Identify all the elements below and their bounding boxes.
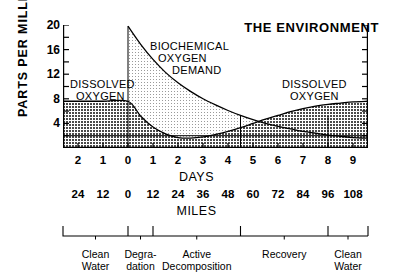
miles-tick-label: 12	[147, 188, 160, 200]
zone-label-line: Decomposition	[162, 261, 231, 273]
miles-tick-label: 0	[125, 188, 131, 200]
zone-label: ActiveDecomposition	[162, 249, 231, 272]
bod-line: BIOCHEMICAL	[150, 40, 229, 52]
days-tick-label: 7	[300, 154, 306, 166]
y-tick-label: 20	[36, 19, 60, 31]
y-tick-label: 12	[36, 68, 60, 80]
days-tick-label: 9	[350, 154, 356, 166]
days-tick-label: 3	[200, 154, 206, 166]
biochemical-oxygen-demand-label: BIOCHEMICALOXYGENDEMAND	[150, 40, 229, 76]
days-tick-label: 0	[125, 154, 131, 166]
miles-tick-label: 24	[72, 188, 85, 200]
bod-line: DEMAND	[150, 64, 229, 76]
miles-tick-label: 72	[272, 188, 285, 200]
miles-axis-ticks: 241201224364860728496108	[0, 188, 393, 204]
do-right-line: OXYGEN	[282, 90, 347, 102]
zone-label-line: Recovery	[262, 249, 306, 261]
do-left-line: OXYGEN	[70, 90, 135, 102]
miles-tick-label: 60	[247, 188, 260, 200]
days-axis-title: DAYS	[0, 170, 393, 184]
days-tick-label: 1	[150, 154, 156, 166]
y-axis-title: PARTS PER MILLION	[16, 0, 30, 117]
dissolved-oxygen-left-label: DISSOLVEDOXYGEN	[70, 78, 135, 102]
zone-label-line: Degra-	[124, 249, 156, 261]
miles-tick-label: 24	[172, 188, 185, 200]
y-tick-label: 16	[36, 44, 60, 56]
miles-tick-label: 96	[322, 188, 335, 200]
zone-label-line: Active	[162, 249, 231, 261]
miles-tick-label: 12	[97, 188, 110, 200]
zone-label-line: Water	[82, 261, 110, 273]
zone-label: CleanWater	[334, 249, 362, 272]
zone-label-line: Water	[334, 261, 362, 273]
days-tick-label: 4	[225, 154, 231, 166]
zone-label-line: Clean	[334, 249, 362, 261]
zone-label: CleanWater	[82, 249, 110, 272]
dissolved-oxygen-right-label: DISSOLVEDOXYGEN	[282, 78, 347, 102]
zone-label: Degra-dation	[124, 249, 156, 272]
miles-tick-label: 36	[197, 188, 210, 200]
zone-bracket-line	[63, 226, 368, 236]
miles-tick-label: 108	[343, 188, 362, 200]
bod-line: OXYGEN	[150, 52, 229, 64]
days-tick-label: 1	[100, 154, 106, 166]
zone-bracket	[0, 222, 393, 242]
miles-tick-label: 84	[297, 188, 310, 200]
y-tick-label: 8	[36, 93, 60, 105]
days-tick-label: 2	[175, 154, 181, 166]
do-right-line: DISSOLVED	[282, 78, 347, 90]
do-left-line: DISSOLVED	[70, 78, 135, 90]
days-axis-ticks: 210123456789	[0, 154, 393, 170]
days-tick-label: 8	[325, 154, 331, 166]
zone-label: Recovery	[262, 249, 306, 261]
days-tick-label: 6	[275, 154, 281, 166]
chart-figure: PARTS PER MILLION 20161284 THE ENVIRONME…	[0, 0, 393, 280]
miles-axis-title: MILES	[0, 204, 393, 218]
chart-title: THE ENVIRONMENT	[244, 20, 379, 35]
zone-label-line: Clean	[82, 249, 110, 261]
days-tick-label: 5	[250, 154, 256, 166]
y-tick-label: 4	[36, 117, 60, 129]
zone-label-line: dation	[124, 261, 156, 273]
miles-tick-label: 48	[222, 188, 235, 200]
days-tick-label: 2	[75, 154, 81, 166]
